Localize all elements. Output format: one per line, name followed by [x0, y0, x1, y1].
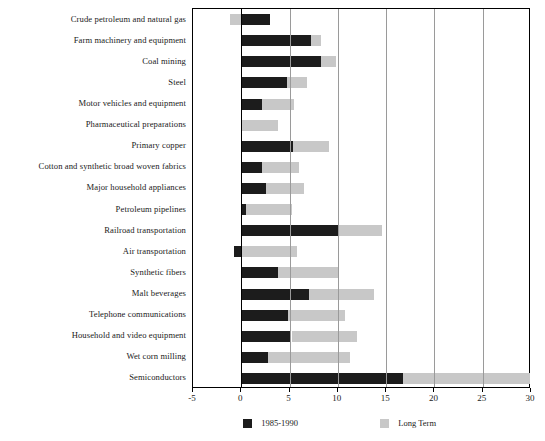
- x-tick-mark: [433, 388, 434, 392]
- x-tick-label: 5: [286, 393, 291, 403]
- category-label: Telephone communications: [0, 309, 186, 319]
- x-tick-label: 25: [477, 393, 486, 403]
- bar-row: [193, 56, 529, 67]
- gridline: [434, 9, 435, 387]
- bar-segment-long-term: [403, 373, 530, 384]
- bar-segment-1985-1990: [241, 14, 270, 25]
- bar-segment-long-term: [339, 225, 382, 236]
- bar-segment-long-term: [293, 141, 329, 152]
- bar-segment-1985-1990: [241, 373, 402, 384]
- category-label: Motor vehicles and equipment: [0, 98, 186, 108]
- bar-segment-long-term: [230, 14, 242, 25]
- bar-chart: Crude petroleum and natural gasFarm mach…: [0, 0, 545, 441]
- bar-segment-1985-1990: [241, 56, 321, 67]
- plot-area: [192, 8, 530, 388]
- bar-row: [193, 225, 529, 236]
- legend-label: Long Term: [398, 418, 436, 428]
- bar-segment-long-term: [292, 331, 358, 342]
- bar-segment-1985-1990: [241, 141, 293, 152]
- x-tick-label: 30: [526, 393, 535, 403]
- x-tick-mark: [482, 388, 483, 392]
- x-tick-mark: [337, 388, 338, 392]
- bar-segment-long-term: [262, 162, 300, 173]
- bar-segment-1985-1990: [241, 35, 311, 46]
- bar-row: [193, 331, 529, 342]
- bar-row: [193, 183, 529, 194]
- category-label: Wet corn milling: [0, 351, 186, 361]
- bar-row: [193, 35, 529, 46]
- bar-row: [193, 14, 529, 25]
- gridline: [386, 9, 387, 387]
- gridline: [338, 9, 339, 387]
- x-tick-label: 20: [429, 393, 438, 403]
- x-axis: -5051015202530: [192, 388, 530, 406]
- bar-segment-long-term: [288, 310, 345, 321]
- category-label: Crude petroleum and natural gas: [0, 14, 186, 24]
- category-label: Major household appliances: [0, 182, 186, 192]
- bar-row: [193, 99, 529, 110]
- category-label: Pharmaceutical preparations: [0, 119, 186, 129]
- x-tick-label: 10: [332, 393, 341, 403]
- x-tick-mark: [240, 388, 241, 392]
- category-label: Synthetic fibers: [0, 267, 186, 277]
- bar-segment-long-term: [309, 289, 374, 300]
- bar-segment-1985-1990: [241, 352, 268, 363]
- legend-label: 1985-1990: [261, 418, 298, 428]
- legend-item: 1985-1990: [243, 418, 298, 428]
- bar-segment-1985-1990: [241, 331, 291, 342]
- bar-row: [193, 289, 529, 300]
- category-label: Petroleum pipelines: [0, 204, 186, 214]
- category-axis-labels: Crude petroleum and natural gasFarm mach…: [0, 8, 186, 388]
- x-tick-label: 0: [238, 393, 243, 403]
- category-label: Malt beverages: [0, 288, 186, 298]
- x-tick-label: 15: [381, 393, 390, 403]
- bar-segment-long-term: [278, 267, 338, 278]
- bar-row: [193, 352, 529, 363]
- bar-row: [193, 77, 529, 88]
- bars-container: [193, 9, 529, 387]
- gridline: [290, 9, 291, 387]
- bar-row: [193, 373, 529, 384]
- bar-segment-long-term: [311, 35, 322, 46]
- bar-row: [193, 310, 529, 321]
- x-tick-label: -5: [188, 393, 196, 403]
- category-label: Cotton and synthetic broad woven fabrics: [0, 161, 186, 171]
- legend-swatch: [380, 419, 389, 428]
- category-label: Coal mining: [0, 56, 186, 66]
- category-label: Farm machinery and equipment: [0, 35, 186, 45]
- bar-row: [193, 267, 529, 278]
- bar-segment-long-term: [246, 204, 292, 215]
- x-tick-mark: [192, 388, 193, 392]
- bar-segment-1985-1990: [241, 77, 286, 88]
- bar-segment-1985-1990: [241, 267, 278, 278]
- bar-segment-long-term: [321, 56, 335, 67]
- category-label: Household and video equipment: [0, 330, 186, 340]
- bar-segment-1985-1990: [241, 99, 261, 110]
- category-label: Primary copper: [0, 140, 186, 150]
- category-label: Air transportation: [0, 246, 186, 256]
- legend-swatch: [243, 419, 252, 428]
- x-tick-mark: [289, 388, 290, 392]
- bar-segment-1985-1990: [234, 246, 242, 257]
- zero-axis-line: [241, 9, 242, 387]
- bar-segment-1985-1990: [241, 310, 287, 321]
- bar-row: [193, 141, 529, 152]
- category-label: Steel: [0, 77, 186, 87]
- bar-row: [193, 204, 529, 215]
- chart-legend: 1985-1990Long Term: [192, 418, 530, 434]
- x-tick-mark: [530, 388, 531, 392]
- gridline: [483, 9, 484, 387]
- bar-segment-long-term: [266, 183, 304, 194]
- bar-segment-1985-1990: [241, 162, 261, 173]
- bar-row: [193, 162, 529, 173]
- bar-segment-1985-1990: [241, 183, 266, 194]
- bar-segment-1985-1990: [241, 289, 309, 300]
- legend-item: Long Term: [380, 418, 436, 428]
- bar-segment-long-term: [241, 120, 278, 131]
- category-label: Semiconductors: [0, 372, 186, 382]
- category-label: Railroad transportation: [0, 225, 186, 235]
- bar-row: [193, 246, 529, 257]
- x-tick-mark: [385, 388, 386, 392]
- bar-row: [193, 120, 529, 131]
